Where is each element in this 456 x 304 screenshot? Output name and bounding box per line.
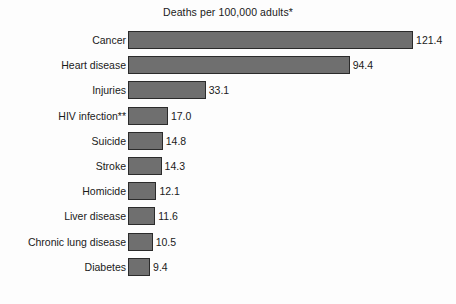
bar-and-value: 9.4 <box>128 258 168 276</box>
value-label: 10.5 <box>156 233 176 251</box>
bar-and-value: 17.0 <box>128 107 191 125</box>
bar-and-value: 33.1 <box>128 81 229 99</box>
category-label: Chronic lung disease <box>6 233 126 251</box>
category-label: Suicide <box>6 132 126 150</box>
bar <box>128 157 162 175</box>
bar <box>128 258 150 276</box>
value-label: 121.4 <box>416 31 442 49</box>
bar <box>128 31 413 49</box>
bar-and-value: 10.5 <box>128 233 176 251</box>
value-label: 14.8 <box>166 132 186 150</box>
bar-and-value: 94.4 <box>128 56 373 74</box>
bar-and-value: 14.3 <box>128 157 185 175</box>
category-label: Stroke <box>6 157 126 175</box>
value-label: 9.4 <box>153 258 168 276</box>
category-label: Cancer <box>6 31 126 49</box>
chart-title: Deaths per 100,000 adults* <box>0 6 456 18</box>
bar <box>128 107 168 125</box>
category-label: Heart disease <box>6 56 126 74</box>
bar-row: Homicide12.1 <box>0 182 456 200</box>
bar-and-value: 11.6 <box>128 207 178 225</box>
bar-and-value: 121.4 <box>128 31 442 49</box>
bar-row: Chronic lung disease10.5 <box>0 233 456 251</box>
plot-area: Cancer121.4Heart disease94.4Injuries33.1… <box>0 31 456 289</box>
category-label: Injuries <box>6 81 126 99</box>
bar-row: Stroke14.3 <box>0 157 456 175</box>
bar-row: Diabetes9.4 <box>0 258 456 276</box>
bar-row: Suicide14.8 <box>0 132 456 150</box>
bar <box>128 81 206 99</box>
value-label: 17.0 <box>171 107 191 125</box>
bar-row: Cancer121.4 <box>0 31 456 49</box>
bar-and-value: 12.1 <box>128 182 180 200</box>
value-label: 14.3 <box>165 157 185 175</box>
bar <box>128 233 153 251</box>
bar-row: Injuries33.1 <box>0 81 456 99</box>
bar-row: Liver disease11.6 <box>0 207 456 225</box>
category-label: Homicide <box>6 182 126 200</box>
bar <box>128 56 350 74</box>
category-label: HIV infection** <box>6 107 126 125</box>
category-label: Liver disease <box>6 207 126 225</box>
bar <box>128 132 163 150</box>
bar-and-value: 14.8 <box>128 132 186 150</box>
bar <box>128 182 156 200</box>
bar-row: HIV infection**17.0 <box>0 107 456 125</box>
bar-chart: Deaths per 100,000 adults* Cancer121.4He… <box>0 0 456 304</box>
bar-row: Heart disease94.4 <box>0 56 456 74</box>
bar <box>128 207 155 225</box>
value-label: 12.1 <box>159 182 179 200</box>
value-label: 11.6 <box>158 207 178 225</box>
category-label: Diabetes <box>6 258 126 276</box>
value-label: 33.1 <box>209 81 229 99</box>
value-label: 94.4 <box>353 56 373 74</box>
